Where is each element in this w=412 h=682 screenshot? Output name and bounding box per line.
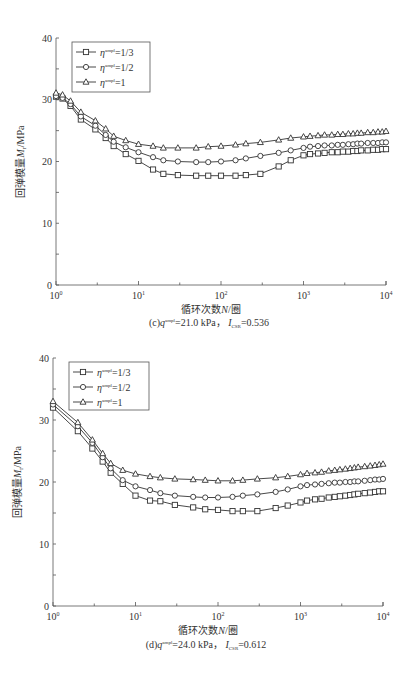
x-axis-title: 循环次数N/圈 [178,624,237,636]
y-tick-label: 30 [42,94,52,105]
square-marker-icon [255,509,260,514]
square-marker-icon [365,148,370,153]
circle-marker-icon [215,495,220,500]
square-marker-icon [136,158,141,163]
circle-marker-icon [329,143,334,148]
y-tick-label: 20 [42,156,52,167]
square-marker-icon [288,158,293,163]
circle-marker-icon [307,144,312,149]
square-marker-icon [158,499,163,504]
x-tick-label: 102 [212,611,225,622]
circle-marker-icon [194,160,199,165]
circle-marker-icon [120,478,125,483]
circle-marker-icon [111,139,116,144]
chart-caption: (c)qampl=21.0 kPa， ICSR=0.536 [149,317,269,329]
square-marker-icon [206,173,211,178]
square-marker-icon [285,503,290,508]
circle-marker-icon [258,153,263,158]
x-tick-label: 100 [50,290,63,301]
square-marker-icon [161,171,166,176]
square-marker-icon [230,509,235,514]
y-tick-label: 40 [39,353,49,364]
square-marker-icon [383,147,388,152]
chart-panel-c: 010203040100101102103104循环次数N/圈回弹模量Mr/MP… [14,33,393,330]
triangle-marker-icon [68,98,74,103]
triangle-marker-icon [383,128,389,133]
circle-marker-icon [233,158,238,163]
circle-marker-icon [301,145,306,150]
circle-marker-icon [315,143,320,148]
series-triangle [50,398,386,483]
square-marker-icon [276,164,281,169]
x-tick-label: 103 [297,290,310,301]
square-marker-icon [147,498,152,503]
square-marker-icon [298,500,303,505]
circle-marker-icon [288,148,293,153]
y-axis-title: 回弹模量Mr/MPa [14,125,27,198]
square-marker-icon [335,150,340,155]
circle-marker-icon [276,150,281,155]
circle-marker-icon [147,487,152,492]
square-marker-icon [307,151,312,156]
legend-square-icon [83,49,88,54]
triangle-marker-icon [92,118,98,123]
square-marker-icon [273,505,278,510]
circle-marker-icon [380,476,385,481]
circle-marker-icon [285,487,290,492]
square-marker-icon [191,505,196,510]
square-marker-icon [312,497,317,502]
square-marker-icon [332,494,337,499]
triangle-marker-icon [103,126,109,131]
triangle-marker-icon [50,398,56,403]
x-tick-label: 104 [377,611,390,622]
square-marker-icon [356,491,361,496]
x-tick-label: 104 [380,290,393,301]
circle-marker-icon [337,480,342,485]
legend-circle-icon [80,384,85,389]
circle-marker-icon [383,140,388,145]
circle-marker-icon [203,495,208,500]
x-axis-title: 循环次数N/圈 [181,303,240,315]
triangle-marker-icon [75,419,81,424]
y-tick-label: 10 [42,218,52,229]
circle-marker-icon [133,484,138,489]
circle-marker-icon [191,494,196,499]
square-marker-icon [315,151,320,156]
square-marker-icon [329,150,334,155]
x-tick-label: 101 [129,611,142,622]
x-tick-label: 101 [132,290,145,301]
square-marker-icon [215,507,220,512]
circle-marker-icon [206,160,211,165]
square-marker-icon [337,494,342,499]
square-marker-icon [90,446,95,451]
circle-marker-icon [175,159,180,164]
circle-marker-icon [335,142,340,147]
x-tick-label: 102 [215,290,228,301]
circle-marker-icon [365,140,370,145]
circle-marker-icon [304,483,309,488]
square-marker-icon [233,173,238,178]
circle-marker-icon [103,132,108,137]
circle-marker-icon [312,482,317,487]
square-marker-icon [175,172,180,177]
y-tick-label: 0 [44,601,49,612]
circle-marker-icon [172,493,177,498]
circle-marker-icon [319,481,324,486]
circle-marker-icon [230,494,235,499]
triangle-marker-icon [120,467,126,472]
circle-marker-icon [362,478,367,483]
square-marker-icon [203,507,208,512]
circle-marker-icon [218,159,223,164]
circle-marker-icon [93,123,98,128]
legend: ηampl=1/3ηampl=1/2ηampl=1 [69,362,149,410]
y-tick-label: 40 [42,33,52,44]
x-tick-label: 100 [47,611,60,622]
square-marker-icon [258,171,263,176]
x-tick-label: 103 [294,611,307,622]
square-marker-icon [301,153,306,158]
square-marker-icon [240,509,245,514]
triangle-marker-icon [365,129,371,134]
triangle-marker-icon [175,145,181,150]
chart-caption: (d)qampl=24.0 kPa， ICSR=0.612 [146,639,267,651]
y-axis-title: 回弹模量Mr/MPa [11,445,24,518]
